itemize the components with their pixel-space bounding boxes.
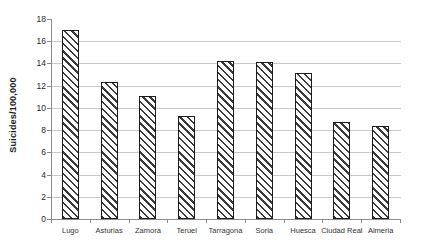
x-tick-mark: [167, 220, 168, 223]
x-tick-mark: [206, 220, 207, 223]
bar: [217, 61, 234, 219]
y-tick-label: 6: [20, 148, 46, 156]
y-tick-mark: [47, 41, 51, 42]
gridline: [52, 41, 401, 42]
bar: [62, 30, 79, 219]
y-tick-label: 14: [20, 59, 46, 67]
y-tick-label: 18: [20, 15, 46, 23]
x-tick-mark: [129, 220, 130, 223]
bar: [295, 73, 312, 219]
x-tick-mark: [90, 220, 91, 223]
y-tick-mark: [47, 86, 51, 87]
y-tick-label: 16: [20, 37, 46, 45]
y-tick-mark: [47, 108, 51, 109]
x-tick-mark: [51, 220, 52, 223]
bar: [256, 62, 273, 219]
bar: [372, 126, 389, 219]
x-tick-label: Almeria: [356, 226, 406, 235]
y-tick-label: 8: [20, 126, 46, 134]
x-tick-mark: [245, 220, 246, 223]
x-tick-mark: [361, 220, 362, 223]
bar-chart-figure: Suicides/100,000 024681012141618LugoAstu…: [0, 0, 422, 251]
y-tick-label: 12: [20, 82, 46, 90]
y-tick-mark: [47, 175, 51, 176]
y-tick-label: 4: [20, 171, 46, 179]
x-tick-mark: [400, 220, 401, 223]
bar: [139, 96, 156, 219]
bar: [333, 122, 350, 219]
y-tick-mark: [47, 19, 51, 20]
x-tick-mark: [322, 220, 323, 223]
bar: [101, 82, 118, 219]
y-tick-label: 0: [20, 215, 46, 223]
y-tick-mark: [47, 152, 51, 153]
bar: [178, 116, 195, 219]
x-tick-mark: [284, 220, 285, 223]
y-tick-mark: [47, 197, 51, 198]
y-axis-title: Suicides/100,000: [8, 15, 18, 215]
y-tick-mark: [47, 130, 51, 131]
y-tick-label: 10: [20, 104, 46, 112]
y-tick-label: 2: [20, 193, 46, 201]
y-tick-mark: [47, 63, 51, 64]
